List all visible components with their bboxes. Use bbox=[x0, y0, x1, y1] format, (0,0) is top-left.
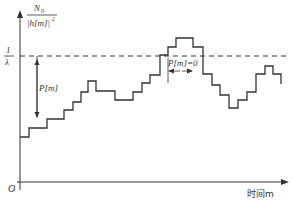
y-label-numerator-sub: 0 bbox=[41, 8, 44, 14]
power-label: P[m] bbox=[38, 83, 58, 93]
x-axis-label: 时间m bbox=[247, 188, 274, 199]
threshold-label: 1 λ bbox=[4, 45, 14, 67]
y-axis-label: N 0 |h[m]| 2 bbox=[27, 3, 57, 28]
threshold-numerator: 1 bbox=[6, 45, 11, 55]
zero-power-label: P[m]=0 bbox=[167, 58, 198, 68]
origin-label: O bbox=[8, 183, 15, 194]
staircase-curve bbox=[20, 38, 281, 137]
threshold-denominator: λ bbox=[4, 57, 9, 67]
y-label-denominator-sup: 2 bbox=[52, 16, 55, 22]
waterfilling-diagram: N 0 |h[m]| 2 1 λ P[m] P[m]=0 O 时间m bbox=[0, 0, 294, 205]
y-label-numerator: N bbox=[33, 3, 41, 13]
y-label-denominator: |h[m]| bbox=[27, 18, 50, 28]
